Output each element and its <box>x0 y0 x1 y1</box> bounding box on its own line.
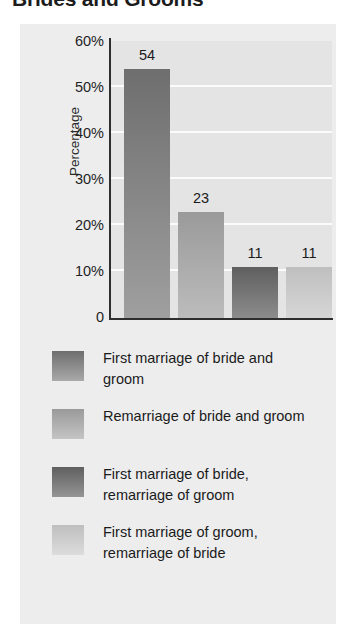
bar-value-label: 54 <box>139 47 155 63</box>
y-axis-tick-labels: 60% 50% 40% 30% 20% 10% 0 <box>42 30 104 315</box>
plot-wrapper: Percentage 60% 50% 40% 30% 20% 10% 0 <box>20 30 336 315</box>
plot-area <box>110 41 332 318</box>
bar-series-1[interactable] <box>124 69 170 318</box>
x-axis-line <box>109 318 333 320</box>
legend-label: First marriage of bride and groom <box>103 348 318 390</box>
page-title: Brides and Grooms <box>12 0 203 11</box>
legend-item[interactable]: First marriage of bride and groom <box>52 348 342 394</box>
bar-series-4[interactable] <box>286 267 332 318</box>
y-tick-label: 20% <box>42 217 104 233</box>
bar-series-3[interactable] <box>232 267 278 318</box>
legend-swatch-series-4 <box>52 525 84 555</box>
legend-item[interactable]: First marriage of groom, remarriage of b… <box>52 522 342 568</box>
legend-label: First marriage of bride, remarriage of g… <box>103 464 318 506</box>
y-tick-label: 40% <box>42 125 104 141</box>
legend-label: First marriage of groom, remarriage of b… <box>103 522 318 564</box>
y-tick-label: 0 <box>42 309 104 325</box>
legend-label: Remarriage of bride and groom <box>103 406 305 427</box>
y-tick-label: 50% <box>42 79 104 95</box>
y-tick-label: 60% <box>42 33 104 49</box>
legend-swatch-series-1 <box>52 351 84 381</box>
bar-value-label: 11 <box>247 245 262 261</box>
legend-swatch-series-3 <box>52 467 84 497</box>
bar-series-2[interactable] <box>178 212 224 318</box>
chart-legend: First marriage of bride and groom Remarr… <box>52 348 342 580</box>
bar-value-label: 11 <box>301 245 316 261</box>
legend-swatch-series-2 <box>52 409 84 439</box>
bar-value-label: 23 <box>193 190 209 206</box>
chart-title-clipped: Brides and Grooms <box>0 0 361 13</box>
legend-item[interactable]: Remarriage of bride and groom <box>52 406 342 452</box>
legend-item[interactable]: First marriage of bride, remarriage of g… <box>52 464 342 510</box>
y-tick-label: 30% <box>42 171 104 187</box>
y-tick-label: 10% <box>42 263 104 279</box>
chart-figure: Brides and Grooms Percentage 60% 50% 40%… <box>0 0 361 633</box>
y-axis-line <box>109 38 111 319</box>
